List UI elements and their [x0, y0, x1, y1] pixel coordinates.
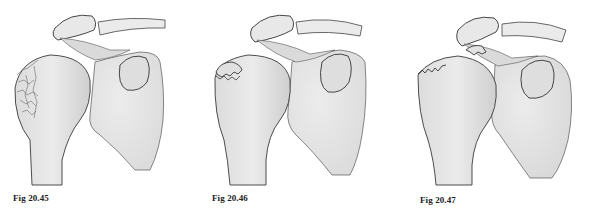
figure-20-47: Fig 20.47 — [390, 0, 590, 211]
shoulder-illustration-displaced — [390, 0, 590, 211]
shoulder-illustration-minimally-displaced — [200, 0, 400, 211]
shoulder-illustration-comminuted — [0, 0, 200, 211]
figure-caption: Fig 20.46 — [212, 193, 248, 203]
figure-20-46: Fig 20.46 — [200, 0, 400, 211]
figure-caption: Fig 20.45 — [13, 193, 49, 203]
figure-caption: Fig 20.47 — [420, 195, 456, 205]
figure-20-45: Fig 20.45 — [0, 0, 200, 211]
